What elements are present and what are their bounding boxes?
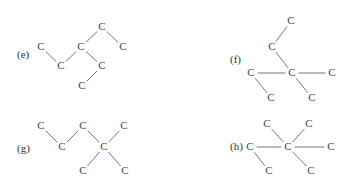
atom-h-2: C <box>303 118 315 129</box>
figure-canvas: (e)CCCCCCC(f)CCCCCCC(g)CCCCCCC(h)CCCCCCC <box>0 0 343 192</box>
structure-label-h: (h) <box>230 141 243 152</box>
structure-h: (h)CCCCCCC <box>0 0 343 192</box>
atom-h-4: C <box>244 141 256 152</box>
atom-h-5: C <box>325 141 337 152</box>
atom-h-1: C <box>261 118 273 129</box>
atom-h-7: C <box>305 165 317 176</box>
atom-h-3: C <box>282 141 294 152</box>
atom-h-6: C <box>263 165 275 176</box>
